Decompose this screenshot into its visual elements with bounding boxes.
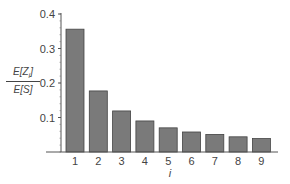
x-tick-label: 6	[188, 155, 194, 167]
y-tick-label: 0.1	[40, 112, 55, 124]
bar	[136, 121, 154, 152]
bar	[206, 134, 224, 152]
x-tick-label: 8	[235, 155, 241, 167]
x-tick-label: 9	[258, 155, 264, 167]
y-tick-label: 0.2	[40, 77, 55, 89]
y-tick-label: 0.4	[40, 8, 55, 20]
x-tick-label: 3	[119, 155, 125, 167]
bar-chart: 0.10.20.30.4 123456789 i	[0, 0, 290, 184]
y-axis: 0.10.20.30.4	[40, 8, 61, 152]
x-axis: 123456789	[46, 152, 278, 167]
bar	[159, 128, 177, 152]
x-tick-label: 1	[72, 155, 78, 167]
y-axis-label: E[Zi] E[S]	[6, 66, 40, 95]
bars	[66, 29, 270, 152]
bar	[89, 91, 107, 152]
bar	[183, 132, 201, 152]
bar	[229, 137, 247, 152]
y-label-denominator: E[S]	[6, 82, 40, 95]
bar	[113, 111, 131, 152]
y-tick-label: 0.3	[40, 43, 55, 55]
x-tick-label: 5	[165, 155, 171, 167]
x-tick-label: 7	[212, 155, 218, 167]
x-tick-label: 4	[142, 155, 148, 167]
bar	[66, 29, 84, 152]
x-axis-label: i	[169, 167, 172, 179]
bar	[252, 139, 270, 152]
y-label-numerator: E[Zi]	[6, 66, 40, 82]
x-tick-label: 2	[95, 155, 101, 167]
